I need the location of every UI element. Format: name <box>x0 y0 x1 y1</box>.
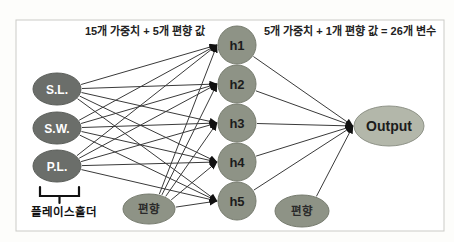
node-label-bias2: 편향 <box>291 204 313 217</box>
node-h4: h4 <box>218 143 256 181</box>
node-h1: h1 <box>218 26 256 64</box>
placeholder-label: 플레이스홀더 <box>31 205 97 218</box>
node-label-h4: h4 <box>229 155 245 170</box>
node-sl: S.L. <box>33 73 81 105</box>
neural-network-diagram: 15개 가중치 + 5개 편향 값 5개 가중치 + 1개 편향 값 = 26개… <box>0 0 454 242</box>
node-h2: h2 <box>218 65 256 103</box>
node-label-sl: S.L. <box>46 83 68 97</box>
node-sw: S.W. <box>33 112 81 144</box>
node-label-sw: S.W. <box>44 122 69 136</box>
node-label-h2: h2 <box>229 77 244 92</box>
node-bias2: 편향 <box>275 195 329 227</box>
node-label-output: Output <box>366 118 412 134</box>
node-h5: h5 <box>218 182 256 220</box>
node-pl: P.L. <box>33 150 81 182</box>
node-label-h5: h5 <box>229 194 244 209</box>
node-label-pl: P.L. <box>47 160 67 174</box>
node-label-h3: h3 <box>229 116 244 131</box>
hidden-layer-note: 15개 가중치 + 5개 편향 값 <box>85 24 205 37</box>
node-bias1: 편향 <box>123 194 175 224</box>
output-layer-note: 5개 가중치 + 1개 편향 값 = 26개 변수 <box>264 24 436 37</box>
node-label-bias1: 편향 <box>138 202 160 215</box>
node-output: Output <box>354 106 424 146</box>
node-h3: h3 <box>218 104 256 142</box>
node-label-h1: h1 <box>229 38 244 53</box>
